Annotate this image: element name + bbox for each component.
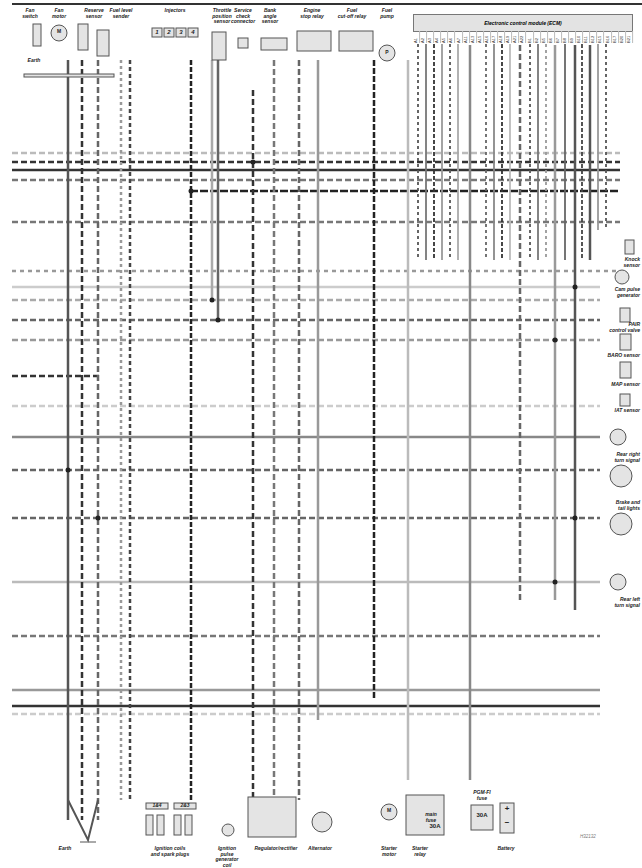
baro-sensor-label: BARO sensor <box>596 353 640 359</box>
map-sensor-label: MAP sensor <box>596 382 640 388</box>
ignition-coils-label: Ignition coils and spark plugs <box>145 846 195 857</box>
coil-pair-2-3: 2&3 <box>174 803 196 809</box>
ecm-pin-label: B1 <box>527 31 534 43</box>
fuel-pump-symbol: P <box>383 50 391 56</box>
fan-motor-label: Fan motor <box>39 8 79 19</box>
coil-pair-1-4: 1&4 <box>146 803 168 809</box>
ecm-pin-label: A13 <box>470 31 477 43</box>
ecm-pin-label: B7 <box>555 31 562 43</box>
brake-tail-lights-label: Brake and tail lights <box>596 500 640 511</box>
ecm-pin-label: A22 <box>519 31 526 43</box>
alternator-label: Alternator <box>295 846 345 852</box>
main-fuse-label: main fuse <box>420 812 442 823</box>
engine-stop-relay-label: Engine stop relay <box>292 8 332 19</box>
main-fuse-rating: 30A <box>428 824 442 830</box>
starter-relay-label: Starter relay <box>395 846 445 857</box>
drawing-code: H32132 <box>580 834 596 839</box>
battery-label: Battery <box>481 846 531 852</box>
ecm-pin-label: A16 <box>484 31 491 43</box>
ecm-pin-label: A11 <box>463 31 470 43</box>
injectors-label: Injectors <box>155 8 195 14</box>
pgm-fi-fuse-rating: 30A <box>472 813 492 819</box>
injector-number: 3 <box>176 30 186 36</box>
fan-motor-symbol: M <box>55 29 63 35</box>
battery-negative-terminal: − <box>501 820 513 826</box>
pgm-fi-fuse-label: PGM-FI fuse <box>470 790 494 801</box>
ecm-pin-label: A7 <box>456 31 463 43</box>
starter-motor-symbol: M <box>385 808 393 814</box>
horizontal-wires <box>12 153 620 714</box>
ecm-pin-label: B17 <box>612 31 619 43</box>
bottom-components <box>68 795 514 842</box>
ignition-pulse-generator-label: Ignition pulse generator coil <box>202 846 252 868</box>
rear-left-turn-signal-label: Rear left turn signal <box>596 597 640 608</box>
ecm-module: Electronic control module (ECM) <box>413 14 633 32</box>
ecm-pin-label: A6 <box>448 31 455 43</box>
iat-sensor-label: IAT sensor <box>596 408 640 414</box>
fuel-level-sender-label: Fuel level sender <box>101 8 141 19</box>
earth-label: Earth <box>40 846 90 852</box>
knock-sensor-label: Knock sensor <box>596 257 640 268</box>
fuel-pump-label: Fuel pump <box>367 8 407 19</box>
ecm-pin-label: B20 <box>619 31 626 43</box>
ecm-pin-label: B8 <box>562 31 569 43</box>
ecm-pin-label: B6 <box>548 31 555 43</box>
top-components <box>24 24 395 77</box>
ecm-pin-label: B16 <box>605 31 612 43</box>
fuel-cutoff-relay-label: Fuel cut-off relay <box>332 8 372 19</box>
rear-right-turn-signal-label: Rear right turn signal <box>596 452 640 463</box>
ecm-pin-label: B15 <box>597 31 604 43</box>
ecm-pin-label: A15 <box>477 31 484 43</box>
injector-number: 2 <box>164 30 174 36</box>
ecm-pin-label: B2 <box>534 31 541 43</box>
cam-pulse-generator-label: Cam pulse generator <box>596 287 640 298</box>
regulator-rectifier-label: Regulator/rectifier <box>251 846 301 852</box>
injector-number: 1 <box>152 30 162 36</box>
injector-number: 4 <box>188 30 198 36</box>
bank-angle-sensor-label: Bank angle sensor <box>250 8 290 25</box>
ecm-pin-label: B21 <box>626 31 633 43</box>
pair-control-valve-label: PAIR control valve <box>596 322 640 333</box>
earth-top-label: Earth <box>24 58 44 64</box>
battery-positive-terminal: + <box>501 806 513 812</box>
ecm-pin-row: A1A2A3A4A5A6A7A11A13A15A16A17A18A19A21A2… <box>413 31 633 43</box>
ecm-pin-label: B5 <box>541 31 548 43</box>
